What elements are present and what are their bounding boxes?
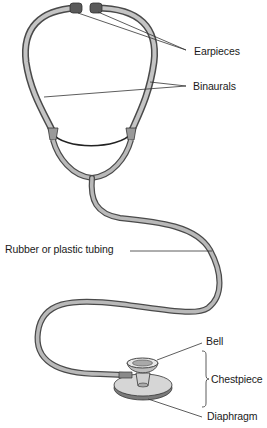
earpiece-right-icon [90, 3, 102, 13]
label-chestpiece: Chestpiece [211, 374, 263, 385]
label-diaphragm: Diaphragm [207, 411, 257, 422]
label-binaurals: Binaurals [193, 81, 236, 92]
binaural-connector-left [48, 128, 58, 140]
label-tubing: Rubber or plastic tubing [5, 244, 114, 255]
binaural-spring [52, 133, 132, 146]
earpiece-left-icon [70, 3, 82, 13]
binaural-connector-right [126, 128, 136, 140]
binaural-right [96, 8, 155, 130]
label-earpieces: Earpieces [194, 46, 240, 57]
tubing [38, 178, 220, 375]
stethoscope-diagram [0, 0, 267, 428]
label-bell: Bell [206, 336, 223, 347]
chestpiece-icon [114, 358, 172, 400]
leader-lines [44, 12, 212, 417]
binaural-left [25, 8, 76, 130]
